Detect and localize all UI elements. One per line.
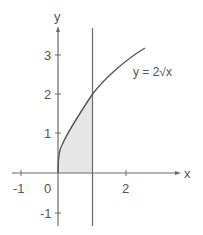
shaded-area	[58, 94, 93, 173]
y-tick-label-neg1: -1	[40, 206, 52, 221]
function-plot: y x 0 -1 2 3 2 1 -1 y = 2√x	[0, 0, 203, 235]
x-axis-label: x	[184, 166, 191, 181]
y-tick-label-2: 2	[44, 87, 51, 102]
y-axis-label: y	[54, 9, 61, 24]
y-axis-arrow-icon	[56, 26, 60, 32]
curve-label: y = 2√x	[133, 65, 172, 79]
x-tick-label-neg1: -1	[13, 181, 25, 196]
x-axis-arrow-icon	[175, 171, 181, 175]
x-tick-label-2: 2	[122, 181, 129, 196]
y-tick-label-3: 3	[44, 48, 51, 63]
origin-label: 0	[44, 181, 51, 196]
y-tick-label-1: 1	[44, 126, 51, 141]
